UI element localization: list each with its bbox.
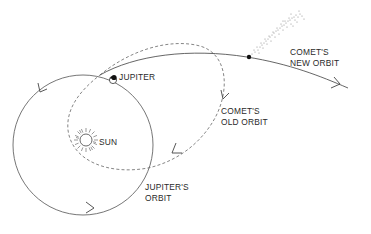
jupiter-orbit-label-line2: ORBIT [145, 193, 172, 203]
comet-old-orbit-arrow-icon [172, 143, 182, 153]
orbit-diagram: JUPITER SUN COMET'S NEW ORBIT COMET'S OL… [0, 0, 371, 234]
comet-old-orbit-arrow-icon [221, 90, 229, 99]
jupiter-label: JUPITER [119, 72, 155, 82]
sun-label: SUN [99, 137, 117, 147]
jupiter-orbit-label-line1: JUPITER'S [145, 182, 189, 192]
comet-new-orbit-label-line1: COMET'S [290, 47, 329, 57]
comet-old-orbit-label-line2: OLD ORBIT [221, 117, 268, 127]
diagram-canvas [0, 0, 371, 234]
sun-icon [74, 128, 98, 152]
comet-new-orbit-label-line2: NEW ORBIT [290, 58, 339, 68]
jupiter-orbit-arrow-icon [86, 202, 94, 213]
comet-old-orbit-label-line1: COMET'S [221, 106, 260, 116]
comet-head [247, 55, 251, 59]
comet-old-orbit [68, 44, 224, 170]
jupiter-planet-icon [109, 75, 116, 84]
